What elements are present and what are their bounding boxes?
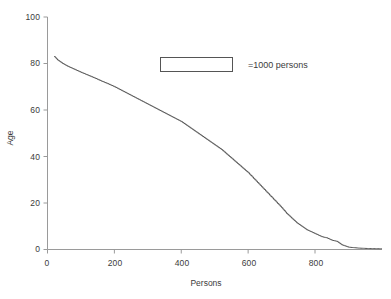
x-tick-label-200: 200 <box>100 258 130 268</box>
y-tick-label-20: 20 <box>14 198 40 208</box>
data-series-line <box>54 57 382 249</box>
y-axis-ticks <box>44 17 48 250</box>
chart-container: 100 80 60 40 20 0 0 200 400 600 800 Pers… <box>0 0 391 299</box>
plot-area <box>0 0 391 299</box>
x-tick-label-0: 0 <box>32 258 62 268</box>
y-tick-label-80: 80 <box>14 58 40 68</box>
legend-swatch-rectangle <box>160 57 233 72</box>
x-tick-label-600: 600 <box>234 258 264 268</box>
x-axis-title: Persons <box>176 278 236 288</box>
y-tick-label-100: 100 <box>14 12 40 22</box>
legend: =1000 persons <box>160 57 308 72</box>
y-tick-label-60: 60 <box>14 105 40 115</box>
x-tick-label-400: 400 <box>167 258 197 268</box>
x-axis-ticks <box>48 250 316 254</box>
y-tick-label-40: 40 <box>14 152 40 162</box>
y-tick-label-0: 0 <box>14 244 40 254</box>
x-tick-label-800: 800 <box>301 258 331 268</box>
y-axis-title: Age <box>5 118 15 158</box>
legend-label: =1000 persons <box>248 60 308 70</box>
